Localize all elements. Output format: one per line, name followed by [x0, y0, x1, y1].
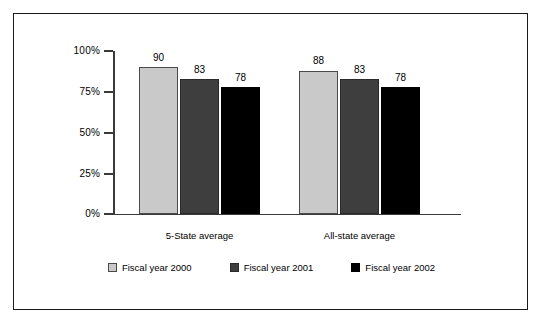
bar-g0-s1	[180, 79, 219, 214]
category-label-0: 5-State average	[129, 230, 270, 241]
bar-value-g0-s1: 83	[180, 65, 219, 75]
bar-g0-s0	[139, 67, 178, 214]
y-tick-100	[104, 50, 113, 52]
y-tick-label-25: 25%	[79, 169, 100, 179]
y-tick-label-50: 50%	[79, 128, 100, 138]
y-tick-label-100: 100%	[74, 46, 100, 56]
category-label-1: All-state average	[289, 230, 430, 241]
plot-area: 100% 75% 50% 25% 0% 90 83 78 88 83 78 5-…	[113, 51, 461, 214]
x-axis-baseline	[113, 214, 461, 215]
bar-g0-s2	[221, 87, 260, 214]
legend-label-2001: Fiscal year 2001	[244, 262, 314, 273]
legend-item-fiscal-year-2002: Fiscal year 2002	[351, 262, 435, 273]
bar-value-g0-s0: 90	[139, 53, 178, 63]
y-tick-25	[104, 173, 113, 175]
bar-g1-s0	[299, 71, 338, 214]
chart-legend: Fiscal year 2000 Fiscal year 2001 Fiscal…	[14, 262, 529, 273]
bar-g1-s2	[381, 87, 420, 214]
y-axis-line	[113, 51, 115, 214]
legend-item-fiscal-year-2001: Fiscal year 2001	[230, 262, 314, 273]
legend-swatch-icon-2000	[108, 263, 117, 272]
bar-value-g0-s2: 78	[221, 73, 260, 83]
legend-swatch-icon-2001	[230, 263, 239, 272]
y-tick-75	[104, 91, 113, 93]
legend-item-fiscal-year-2000: Fiscal year 2000	[108, 262, 192, 273]
legend-label-2002: Fiscal year 2002	[365, 262, 435, 273]
chart-figure: 100% 75% 50% 25% 0% 90 83 78 88 83 78 5-…	[13, 13, 528, 310]
bar-value-g1-s2: 78	[381, 73, 420, 83]
legend-label-2000: Fiscal year 2000	[122, 262, 192, 273]
bar-g1-s1	[340, 79, 379, 214]
legend-swatch-icon-2002	[351, 263, 360, 272]
y-tick-0	[104, 213, 113, 215]
y-tick-label-0: 0%	[85, 209, 100, 219]
y-tick-50	[104, 132, 113, 134]
bar-value-g1-s1: 83	[340, 65, 379, 75]
y-tick-label-75: 75%	[79, 87, 100, 97]
bar-value-g1-s0: 88	[299, 56, 338, 66]
